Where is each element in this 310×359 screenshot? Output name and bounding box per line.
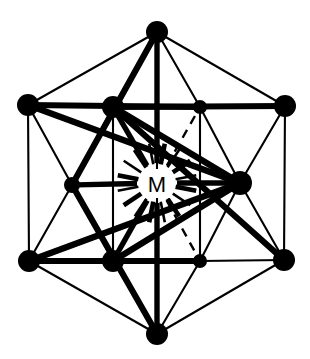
inner-vertex-node — [193, 100, 207, 114]
center-label-group: M — [143, 169, 171, 198]
edge-thin — [200, 260, 284, 261]
edge-thin — [28, 105, 29, 261]
outer-vertex-node — [18, 250, 40, 272]
outer-vertex-node — [146, 323, 168, 345]
inner-vertex-node — [64, 177, 80, 193]
edge-thin — [284, 106, 285, 260]
outer-vertex-node — [17, 94, 39, 116]
figure-root: M — [0, 0, 310, 359]
cluster-diagram: M — [0, 0, 310, 359]
inner-vertex-node — [102, 96, 124, 118]
outer-vertex-node — [274, 95, 296, 117]
outer-vertex-node — [273, 249, 295, 271]
inner-vertex-node — [193, 254, 207, 268]
outer-vertex-node — [146, 21, 168, 43]
inner-vertex-node — [228, 171, 252, 195]
inner-vertex-node — [102, 250, 124, 272]
metal-center-label: M — [148, 172, 166, 197]
spoke-solid — [76, 183, 137, 184]
